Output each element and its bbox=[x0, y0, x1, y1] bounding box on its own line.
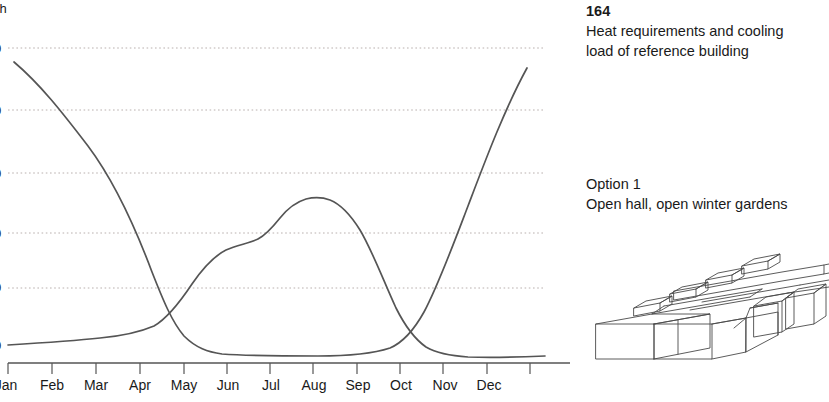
y-tick-label: 0 bbox=[0, 338, 1, 353]
x-tick-label-jan: Jan bbox=[0, 377, 17, 393]
option-title: Option 1 bbox=[586, 175, 788, 195]
y-tick-label: 0 bbox=[0, 166, 1, 181]
option-caption: Option 1 Open hall, open winter gardens bbox=[586, 175, 788, 214]
y-tick-label: 0 bbox=[0, 280, 1, 295]
building-massing-outline bbox=[596, 254, 829, 359]
x-tick-label-jun: Jun bbox=[217, 377, 240, 393]
x-tick-label-oct: Oct bbox=[390, 377, 412, 393]
y-tick-label: 0 bbox=[0, 41, 1, 56]
figure-caption: 164 Heat requirements and cooling load o… bbox=[586, 2, 783, 61]
x-tick-label-mar: Mar bbox=[84, 377, 108, 393]
x-tick-label-feb: Feb bbox=[40, 377, 64, 393]
y-axis-tick-labels: 0 0 0 0 0 0 bbox=[0, 41, 1, 353]
heat-and-cooling-load-chart: /h 0 0 0 0 0 0 bbox=[0, 0, 575, 402]
caption-panel: 164 Heat requirements and cooling load o… bbox=[586, 0, 829, 402]
grid-lines bbox=[8, 48, 545, 288]
series-line-heat-requirement bbox=[14, 62, 527, 356]
x-tick-label-dec: Dec bbox=[477, 377, 502, 393]
x-tick-label-aug: Aug bbox=[302, 377, 327, 393]
series-line-cooling-load bbox=[8, 198, 545, 358]
option-description: Open hall, open winter gardens bbox=[586, 195, 788, 215]
y-tick-label: 0 bbox=[0, 103, 1, 118]
x-tick-label-apr: Apr bbox=[129, 377, 151, 393]
x-tick-label-may: May bbox=[171, 377, 197, 393]
x-tick-label-jul: Jul bbox=[262, 377, 280, 393]
figure-number: 164 bbox=[586, 2, 783, 21]
y-axis-unit-label: /h bbox=[0, 1, 7, 16]
figure-caption-line-2: load of reference building bbox=[586, 42, 783, 62]
x-axis-ticks bbox=[8, 363, 530, 374]
y-tick-label: 0 bbox=[0, 226, 1, 241]
x-axis-tick-labels: Jan Feb Mar Apr May Jun Jul Aug Sep Oct … bbox=[0, 377, 501, 393]
figure-caption-line-1: Heat requirements and cooling bbox=[586, 22, 783, 42]
axonometric-building-diagram bbox=[586, 240, 829, 400]
x-tick-label-sep: Sep bbox=[346, 377, 371, 393]
chart-panel: /h 0 0 0 0 0 0 bbox=[0, 0, 575, 402]
x-tick-label-nov: Nov bbox=[433, 377, 458, 393]
